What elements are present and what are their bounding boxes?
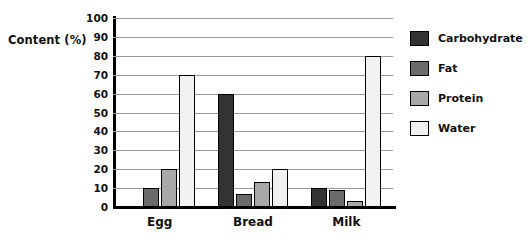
y-tick-label: 70 bbox=[82, 70, 108, 81]
bar-milk-carbohydrate bbox=[311, 188, 327, 207]
legend-item-protein: Protein bbox=[410, 87, 528, 109]
bar-egg-water bbox=[179, 75, 195, 207]
y-tick-label: 100 bbox=[82, 13, 108, 24]
bar-group-bread bbox=[206, 18, 299, 207]
y-axis-tick-labels: 0102030405060708090100 bbox=[80, 18, 108, 207]
category-label-bread: Bread bbox=[206, 215, 299, 229]
y-tick-label: 30 bbox=[82, 145, 108, 156]
category-label-milk: Milk bbox=[300, 215, 393, 229]
legend-swatch-protein bbox=[410, 91, 429, 106]
bar-milk-water bbox=[365, 56, 381, 207]
legend-label-fat: Fat bbox=[438, 63, 458, 74]
bar-bread-fat bbox=[236, 194, 252, 207]
bar-egg-protein bbox=[161, 169, 177, 207]
legend-item-water: Water bbox=[410, 117, 528, 139]
legend-swatch-water bbox=[410, 121, 429, 136]
legend-swatch-fat bbox=[410, 61, 429, 76]
category-label-egg: Egg bbox=[113, 215, 206, 229]
plot-area bbox=[113, 18, 393, 207]
legend-label-carbohydrate: Carbohydrate bbox=[438, 33, 523, 44]
bar-group-milk bbox=[300, 18, 393, 207]
bar-bread-protein bbox=[254, 182, 270, 207]
legend-item-fat: Fat bbox=[410, 57, 528, 79]
y-tick-label: 40 bbox=[82, 126, 108, 137]
bar-milk-protein bbox=[347, 201, 363, 207]
y-tick-label: 0 bbox=[82, 202, 108, 213]
y-tick-label: 50 bbox=[82, 108, 108, 119]
y-tick-label: 10 bbox=[82, 183, 108, 194]
y-tick-label: 80 bbox=[82, 51, 108, 62]
bar-group-egg bbox=[113, 18, 206, 207]
y-tick-label: 20 bbox=[82, 164, 108, 175]
chart-legend: CarbohydrateFatProteinWater bbox=[410, 27, 528, 147]
bar-egg-fat bbox=[143, 188, 159, 207]
legend-label-protein: Protein bbox=[438, 93, 483, 104]
bar-milk-fat bbox=[329, 190, 345, 207]
bar-bread-carbohydrate bbox=[218, 94, 234, 207]
legend-item-carbohydrate: Carbohydrate bbox=[410, 27, 528, 49]
y-tick-label: 60 bbox=[82, 89, 108, 100]
bar-chart-figure: Content (%) 0102030405060708090100 Carbo… bbox=[0, 0, 528, 246]
y-tick-label: 90 bbox=[82, 32, 108, 43]
legend-swatch-carbohydrate bbox=[410, 31, 429, 46]
legend-label-water: Water bbox=[438, 123, 475, 134]
bar-bread-water bbox=[272, 169, 288, 207]
